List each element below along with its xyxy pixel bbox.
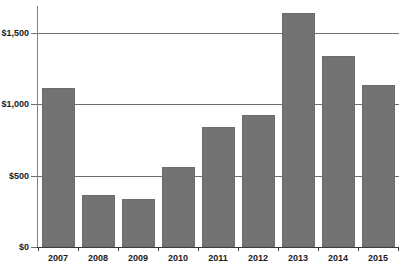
bar-2009 (122, 199, 155, 247)
x-axis-tick-3 (158, 247, 159, 251)
plot-area (38, 6, 399, 247)
x-axis-label-2015: 2015 (358, 252, 398, 264)
x-axis-tick-6 (278, 247, 279, 251)
y-axis-label-500: $500 (9, 171, 29, 181)
x-axis-tick-0 (38, 247, 39, 251)
bar-2007 (42, 88, 75, 247)
bar-2013 (282, 13, 315, 247)
bar-chart: $1,500 $1,000 $500 $0 (0, 0, 403, 267)
x-axis-label-2009: 2009 (118, 252, 158, 264)
y-axis-label-1500: $1,500 (1, 28, 29, 38)
bar-2012 (242, 115, 275, 247)
x-axis-tick-4 (198, 247, 199, 251)
x-axis-tick-7 (318, 247, 319, 251)
x-axis-label-2012: 2012 (238, 252, 278, 264)
bar-2008 (82, 195, 115, 247)
x-axis-line (37, 247, 399, 248)
bar-2011 (202, 127, 235, 247)
x-axis-tick-9 (398, 247, 399, 251)
x-axis-label-2014: 2014 (318, 252, 358, 264)
x-axis-tick-5 (238, 247, 239, 251)
x-axis-label-2008: 2008 (78, 252, 118, 264)
bars-layer (38, 6, 399, 247)
x-axis-tick-2 (118, 247, 119, 251)
x-axis-label-2010: 2010 (158, 252, 198, 264)
y-axis-labels: $1,500 $1,000 $500 $0 (0, 0, 29, 267)
x-axis-labels: 2007 2008 2009 2010 2011 2012 2013 2014 … (38, 252, 399, 266)
y-axis-label-1000: $1,000 (1, 99, 29, 109)
bar-2014 (322, 56, 355, 247)
x-axis-tick-8 (358, 247, 359, 251)
x-axis-label-2007: 2007 (38, 252, 78, 264)
bar-2010 (162, 167, 195, 247)
x-axis-label-2011: 2011 (198, 252, 238, 264)
x-axis-tick-1 (78, 247, 79, 251)
y-axis-label-0: $0 (19, 242, 29, 252)
x-axis-label-2013: 2013 (278, 252, 318, 264)
bar-2015 (362, 85, 395, 247)
